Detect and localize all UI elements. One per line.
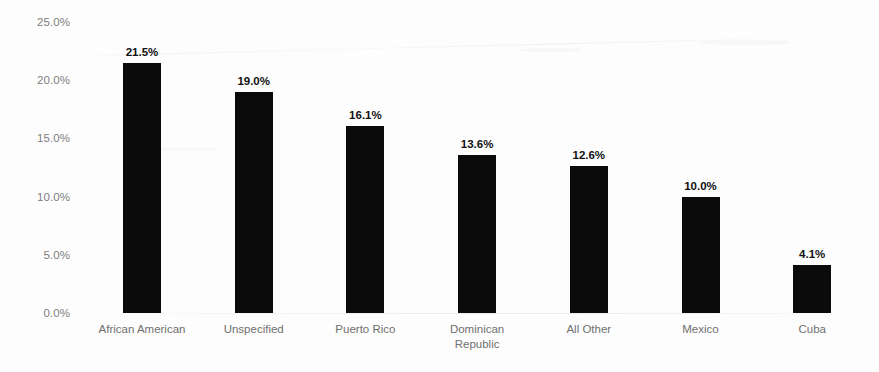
x-axis-category-label: All Other (533, 322, 645, 337)
bar[interactable]: 10.0% (682, 197, 720, 313)
bar-rect (458, 155, 496, 313)
x-axis-category-label: Dominican Republic (421, 322, 533, 352)
bar[interactable]: 12.6% (570, 166, 608, 313)
bar[interactable]: 21.5% (123, 63, 161, 313)
y-axis-tick-label: 15.0% (8, 132, 70, 144)
bar-value-label: 16.1% (349, 109, 382, 121)
y-axis-tick-label: 20.0% (8, 74, 70, 86)
bar[interactable]: 19.0% (235, 92, 273, 313)
bar-chart: 0.0%5.0%10.0%15.0%20.0%25.0% 21.5%19.0%1… (0, 0, 879, 372)
bar-rect (682, 197, 720, 313)
bar[interactable]: 4.1% (793, 265, 831, 313)
bar[interactable]: 13.6% (458, 155, 496, 313)
bar-rect (123, 63, 161, 313)
bar-rect (346, 126, 384, 313)
x-axis-category-label: Mexico (645, 322, 757, 337)
y-axis-tick-label: 0.0% (8, 307, 70, 319)
x-axis-category-label: Unspecified (198, 322, 310, 337)
bar-value-label: 19.0% (237, 75, 270, 87)
bar-rect (793, 265, 831, 313)
bar-rect (235, 92, 273, 313)
x-axis-category-label: Cuba (756, 322, 868, 337)
bar-value-label: 21.5% (126, 46, 159, 58)
bar-value-label: 10.0% (684, 180, 717, 192)
x-axis-category-label: Puerto Rico (309, 322, 421, 337)
y-axis-tick-label: 5.0% (8, 249, 70, 261)
bar-value-label: 13.6% (461, 138, 494, 150)
bar[interactable]: 16.1% (346, 126, 384, 313)
plot-area: 0.0%5.0%10.0%15.0%20.0%25.0% 21.5%19.0%1… (0, 0, 879, 372)
bar-value-label: 4.1% (799, 248, 825, 260)
x-axis-category-label: African American (86, 322, 198, 337)
bar-rect (570, 166, 608, 313)
bar-value-label: 12.6% (572, 149, 605, 161)
y-axis-tick-label: 25.0% (8, 16, 70, 28)
y-axis-tick-label: 10.0% (8, 191, 70, 203)
